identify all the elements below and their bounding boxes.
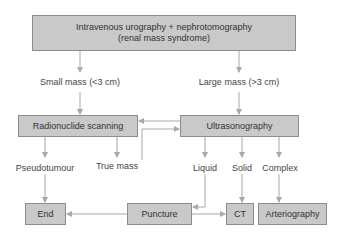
node-arteriography: Arteriography	[258, 203, 327, 225]
node-iv-urography: Intravenous urography + nephrotomography…	[32, 15, 296, 51]
node-end: End	[25, 203, 66, 225]
label-true-mass: True mass	[96, 161, 138, 172]
node-ct: CT	[226, 203, 254, 225]
node-ultrasonography: Ultrasonography	[180, 115, 299, 137]
label-liquid: Liquid	[193, 163, 217, 174]
node-ct-label: CT	[234, 209, 246, 220]
label-large-mass: Large mass (>3 cm)	[199, 77, 279, 88]
label-small-mass: Small mass (<3 cm)	[40, 77, 120, 88]
flowchart-canvas: Intravenous urography + nephrotomography…	[0, 0, 337, 241]
node-ultrasonography-label: Ultrasonography	[206, 121, 272, 132]
node-arteriography-label: Arteriography	[265, 209, 319, 220]
node-iv-urography-title: Intravenous urography + nephrotomography	[76, 22, 252, 33]
node-radionuclide-label: Radionuclide scanning	[33, 121, 124, 132]
arrow-true-mass-to-ultrasonography	[142, 129, 179, 160]
node-puncture: Puncture	[127, 203, 192, 225]
arrow-liquid-to-puncture	[193, 174, 205, 207]
node-radionuclide-scanning: Radionuclide scanning	[18, 115, 138, 137]
node-iv-urography-subtitle: (renal mass syndrome)	[118, 33, 210, 44]
node-end-label: End	[37, 209, 53, 220]
label-complex: Complex	[262, 163, 298, 174]
label-solid: Solid	[232, 163, 252, 174]
label-pseudotumour: Pseudotumour	[16, 163, 75, 174]
node-puncture-label: Puncture	[141, 209, 177, 220]
